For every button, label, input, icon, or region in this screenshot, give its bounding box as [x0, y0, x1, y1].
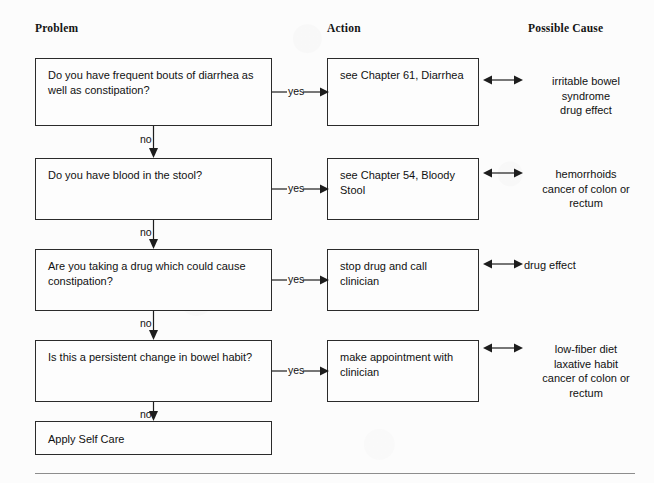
- problem-box-2-text: Do you have blood in the stool?: [48, 168, 263, 183]
- cause-text-1: irritable bowel syndrome drug effect: [524, 74, 648, 118]
- terminal-box-apply-self-care[interactable]: Apply Self Care: [35, 421, 272, 455]
- flowchart-page: Problem Action Possible Cause Do you hav…: [0, 0, 654, 483]
- problem-box-4-text: Is this a persistent change in bowel hab…: [48, 350, 263, 365]
- column-header-problem: Problem: [35, 22, 78, 34]
- edge-label-no-1: no: [140, 134, 152, 145]
- column-header-possible-cause: Possible Cause: [528, 22, 603, 34]
- cause-text-3: drug effect: [524, 258, 648, 273]
- action-box-1-text: see Chapter 61, Diarrhea: [340, 68, 470, 83]
- edge-label-yes-1: yes: [288, 86, 304, 97]
- action-box-3-text: stop drug and call clinician: [340, 259, 470, 288]
- cause-connector-3: [483, 260, 523, 269]
- cause-connector-4: [483, 344, 523, 353]
- problem-box-3[interactable]: Are you taking a drug which could cause …: [35, 249, 272, 311]
- action-box-2[interactable]: see Chapter 54, Bloody Stool: [327, 158, 479, 220]
- footer-rule: [35, 473, 635, 474]
- cause-text-4: low-fiber diet laxative habit cancer of …: [524, 342, 648, 400]
- edge-label-no-4: no: [140, 409, 152, 420]
- edge-label-yes-4: yes: [288, 365, 304, 376]
- cause-connector-2: [483, 169, 523, 178]
- edge-label-yes-3: yes: [288, 274, 304, 285]
- problem-box-3-text: Are you taking a drug which could cause …: [48, 259, 263, 288]
- cause-text-2: hemorrhoids cancer of colon or rectum: [524, 167, 648, 211]
- edge-label-no-2: no: [140, 227, 152, 238]
- action-box-2-text: see Chapter 54, Bloody Stool: [340, 168, 470, 197]
- action-box-1[interactable]: see Chapter 61, Diarrhea: [327, 58, 479, 126]
- edge-label-no-3: no: [140, 318, 152, 329]
- problem-box-1[interactable]: Do you have frequent bouts of diarrhea a…: [35, 58, 272, 126]
- problem-box-1-text: Do you have frequent bouts of diarrhea a…: [48, 68, 263, 97]
- problem-box-2[interactable]: Do you have blood in the stool?: [35, 158, 272, 220]
- column-header-action: Action: [327, 22, 361, 34]
- problem-box-4[interactable]: Is this a persistent change in bowel hab…: [35, 340, 272, 402]
- cause-connector-1: [483, 76, 523, 85]
- action-box-4[interactable]: make appointment with clinician: [327, 340, 479, 402]
- action-box-3[interactable]: stop drug and call clinician: [327, 249, 479, 311]
- terminal-box-text: Apply Self Care: [48, 432, 263, 447]
- action-box-4-text: make appointment with clinician: [340, 350, 470, 379]
- edge-label-yes-2: yes: [288, 183, 304, 194]
